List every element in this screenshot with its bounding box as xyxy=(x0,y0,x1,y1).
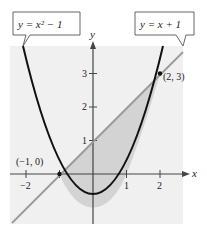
y-tick-3: 3 xyxy=(82,68,87,79)
y-axis-arrow-icon xyxy=(90,41,96,49)
callout-parabola: y = x² − 1 xyxy=(13,12,80,46)
point-label-2-3: (2, 3) xyxy=(163,71,185,83)
svg-text:y = x² − 1: y = x² − 1 xyxy=(17,18,62,30)
y-tick-2: 2 xyxy=(82,101,87,112)
x-axis-arrow-icon xyxy=(182,171,190,177)
y-tick-1: 1 xyxy=(82,135,87,146)
point-neg1-0 xyxy=(57,172,61,176)
x-axis-label: x xyxy=(191,167,197,179)
point-label-neg1-0: (−1, 0) xyxy=(16,156,43,168)
graph: −2 1 2 1 2 3 x y (−1, 0) (2, 3) y = x² −… xyxy=(0,0,207,233)
x-tick-2: 2 xyxy=(157,180,162,191)
callout-line: y = x + 1 xyxy=(135,12,194,46)
x-tick-neg2: −2 xyxy=(20,180,31,191)
y-axis-label: y xyxy=(89,28,95,40)
svg-text:y = x + 1: y = x + 1 xyxy=(139,18,181,30)
point-2-3 xyxy=(158,71,162,75)
x-tick-1: 1 xyxy=(124,180,129,191)
